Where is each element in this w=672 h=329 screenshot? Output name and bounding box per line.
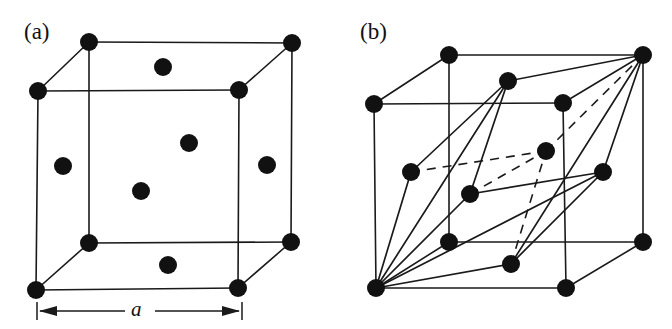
fcc-unit-cell-drawing (0, 0, 336, 329)
atom-face-center-bottom (502, 255, 520, 273)
atom-corner-back-top-left (80, 33, 98, 51)
atom-face-center-left (402, 163, 420, 181)
atom-corner-front-bottom-left (367, 279, 385, 297)
edge-back-bottom (89, 242, 291, 243)
atom-corner-front-top-left (365, 95, 383, 113)
atom-face-center-back (180, 134, 198, 152)
atom-corner-front-bottom-right (229, 279, 247, 297)
primitive-cell-hidden-edges (411, 55, 643, 264)
atom-corner-back-bottom-left (80, 234, 98, 252)
edge-depth-bottom-left (36, 243, 89, 290)
atom-face-center-front (461, 185, 479, 203)
dimension-arrowhead-left (39, 306, 57, 316)
panel-a-fcc-unit-cell: (a) a (0, 0, 336, 329)
edge-depth-top-left (374, 55, 449, 104)
atom-corner-front-bottom-right (557, 279, 575, 297)
atom-face-center-top (154, 58, 172, 76)
edge-front-left (36, 91, 38, 290)
lattice-parameter-label: a (131, 299, 142, 320)
atom-corner-back-top-right (634, 46, 652, 64)
panel-b-primitive-rhombohedral-cell: (b) (336, 0, 672, 329)
edge-depth-bottom-right (238, 242, 291, 288)
edge-front-right (563, 103, 566, 288)
panel-a-caption: (a) (24, 20, 50, 43)
atom-face-center-right (258, 156, 276, 174)
cube-wireframe (36, 42, 292, 290)
edge-front-top (374, 103, 563, 104)
primitive-cell-drawing (336, 0, 672, 329)
atom-corner-front-top-right (230, 81, 248, 99)
edge-front-left (374, 104, 376, 288)
edge-front-top (38, 90, 239, 91)
atom-corner-front-top-right (554, 94, 572, 112)
edge-depth-bottom-right (566, 242, 643, 288)
atom-corner-back-bottom-right (634, 233, 652, 251)
edge-front-right (238, 90, 239, 288)
atom-face-center-back (537, 142, 555, 160)
atom-corner-back-top-right (283, 34, 301, 52)
atom-face-center-top (499, 72, 517, 90)
edge-back-right (291, 43, 292, 242)
atom-corner-front-top-left (29, 82, 47, 100)
atom-corner-back-bottom-left (440, 233, 458, 251)
atom-corner-front-bottom-left (27, 281, 45, 299)
atom-face-center-bottom (159, 256, 177, 274)
atom-face-center-left (54, 157, 72, 175)
atom-face-center-front (132, 182, 150, 200)
edge-depth-top-right (239, 43, 292, 90)
primitive-edge-4 (376, 172, 603, 288)
atom-corner-back-bottom-right (282, 233, 300, 251)
edge-depth-top-left (38, 42, 89, 91)
edge-front-bottom (36, 288, 238, 290)
atom-group (27, 33, 301, 299)
dimension-arrowhead-right (222, 306, 240, 316)
atom-face-center-right (594, 163, 612, 181)
figure-root: (a) a (0, 0, 672, 329)
panel-b-caption: (b) (360, 20, 387, 43)
primitive-edge-10 (603, 55, 643, 172)
edge-back-top (89, 42, 292, 43)
atom-corner-back-top-left (440, 46, 458, 64)
atom-group (365, 46, 652, 297)
